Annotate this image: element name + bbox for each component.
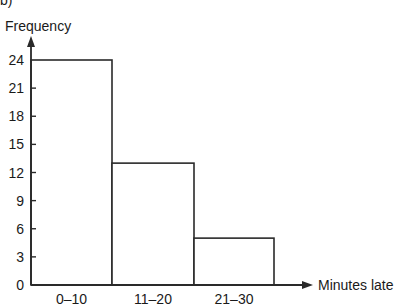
bar-0-10 <box>31 60 112 285</box>
y-axis-arrow-icon <box>27 36 35 47</box>
y-tick-label: 0 <box>16 277 24 293</box>
bars-group <box>31 60 274 285</box>
y-tick-label: 3 <box>16 249 24 265</box>
x-axis-arrow-icon <box>302 281 313 289</box>
bar-11-20 <box>112 163 194 285</box>
x-category-label: 11–20 <box>134 291 172 307</box>
x-labels-group: 0–1011–2021–30 <box>56 291 254 307</box>
y-tick-label: 12 <box>8 165 24 181</box>
y-tick-label: 6 <box>16 221 24 237</box>
bar-21-30 <box>194 238 274 285</box>
y-tick-label: 15 <box>8 136 24 152</box>
x-category-label: 21–30 <box>215 291 254 307</box>
y-axis-label: Frequency <box>5 18 71 34</box>
x-category-label: 0–10 <box>56 291 87 307</box>
y-ticks-group: 03691215182124 <box>8 52 36 293</box>
histogram-chart: 03691215182124 0–1011–2021–30 Frequency … <box>0 0 407 307</box>
y-tick-label: 21 <box>8 80 24 96</box>
y-tick-label: 24 <box>8 52 24 68</box>
x-axis-label: Minutes late <box>318 277 394 293</box>
y-tick-label: 18 <box>8 108 24 124</box>
y-tick-label: 9 <box>16 193 24 209</box>
